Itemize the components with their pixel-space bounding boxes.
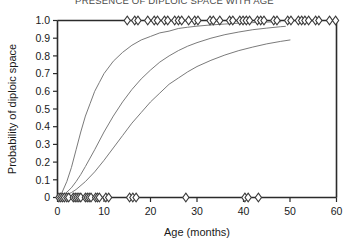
data-point-absent xyxy=(183,193,189,202)
y-tick-label: 0.3 xyxy=(35,138,50,150)
x-tick-label: 30 xyxy=(191,205,203,217)
data-point-present xyxy=(217,16,223,25)
chart-figure: PRESENCE OF DIPLOIC SPACE WITH AGE 00.10… xyxy=(0,0,349,245)
x-axis-title: Age (months) xyxy=(164,226,230,238)
data-point-present xyxy=(332,16,338,25)
y-tick-label: 0.8 xyxy=(35,50,50,62)
plot-area: 00.10.20.30.40.50.60.70.80.91.0010203040… xyxy=(0,0,349,245)
x-tick-label: 50 xyxy=(284,205,296,217)
y-tick-label: 0.2 xyxy=(35,156,50,168)
y-tick-label: 0.4 xyxy=(35,120,50,132)
y-tick-label: 0.9 xyxy=(35,32,50,44)
curve-curve-lower xyxy=(59,40,290,197)
y-tick-label: 0.7 xyxy=(35,67,50,79)
y-tick-label: 0.5 xyxy=(35,103,50,115)
y-tick-label: 0.6 xyxy=(35,85,50,97)
x-tick-label: 10 xyxy=(98,205,110,217)
curve-curve-middle xyxy=(59,26,285,196)
data-point-present xyxy=(186,16,192,25)
x-tick-label: 40 xyxy=(238,205,250,217)
data-point-present xyxy=(145,16,151,25)
x-tick-label: 20 xyxy=(145,205,157,217)
data-point-present xyxy=(326,16,332,25)
data-point-present xyxy=(124,16,130,25)
x-tick-label: 60 xyxy=(331,205,343,217)
y-tick-label: 1.0 xyxy=(35,14,50,26)
x-tick-label: 0 xyxy=(55,205,61,217)
curve-curve-upper xyxy=(59,22,281,196)
y-tick-label: 0 xyxy=(44,191,50,203)
y-axis-title: Probability of diploic space xyxy=(6,44,18,174)
data-point-absent xyxy=(255,193,261,202)
y-tick-label: 0.1 xyxy=(35,174,50,186)
